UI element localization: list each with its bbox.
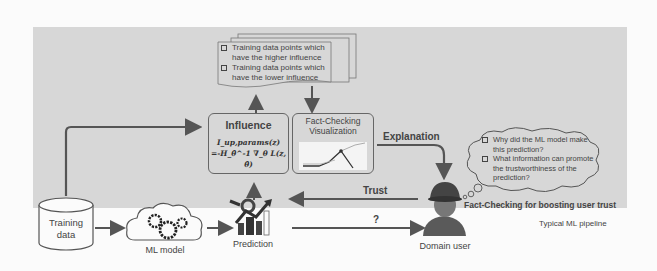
checkbox-icon — [482, 156, 488, 162]
ml-model-node: ML model — [125, 200, 205, 258]
thought-bubble: Why did the ML model make this predictio… — [462, 128, 608, 198]
user-avatar-icon — [420, 180, 470, 238]
fact-checking-visualization-box: Fact-Checking Visualization — [292, 113, 374, 174]
checkbox-icon — [221, 65, 227, 71]
question-trustworthiness: What information can promote the trustwo… — [482, 154, 597, 183]
influence-title: Influence — [209, 119, 288, 131]
list-item-higher-influence: Training data points which have the high… — [221, 43, 333, 63]
influence-box: Influence I_up,params(z) =-H_θ̂^-1 ∇_θ L… — [208, 113, 289, 174]
checkbox-icon — [221, 45, 227, 51]
list-item-lower-influence: Training data points which have the lowe… — [221, 63, 333, 83]
training-data-node: Training data — [38, 197, 94, 253]
influence-list-stack: Training data points which have the high… — [218, 32, 378, 92]
question-why-prediction: Why did the ML model make this predictio… — [482, 135, 597, 154]
prediction-chart-icon — [228, 197, 288, 237]
question-label: ? — [373, 214, 379, 225]
checkbox-icon — [482, 137, 488, 143]
trust-label: Trust — [363, 185, 387, 196]
cloud-gears-icon — [125, 200, 205, 244]
mini-chart-icon — [299, 142, 367, 170]
prediction-node: Prediction — [228, 197, 288, 255]
fact-checking-caption: Fact-Checking for boosting user trust — [464, 200, 616, 210]
domain-user-node: Domain user — [415, 180, 475, 260]
influence-formula: I_up,params(z) =-H_θ̂^-1 ∇_θ L(z, θ̂) — [209, 137, 288, 170]
explanation-label: Explanation — [383, 131, 440, 142]
typical-pipeline-caption: Typical ML pipeline — [539, 219, 607, 228]
